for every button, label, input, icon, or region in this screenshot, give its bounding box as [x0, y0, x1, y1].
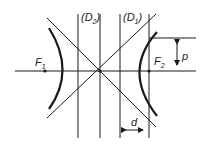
hyperbola-left-branch [49, 28, 63, 109]
label-d1: (D1) [123, 11, 143, 25]
hyperbola-right-branch [140, 32, 158, 116]
label-f1: F1 [35, 56, 46, 70]
hyperbola-diagram: (D2) (D1) F1 F2 p d [0, 0, 207, 148]
label-d2: (D2) [81, 11, 101, 25]
center-point [98, 69, 101, 72]
label-f2: F2 [154, 55, 165, 69]
label-d: d [131, 116, 138, 128]
focus-f2-point [147, 69, 150, 72]
label-p: p [181, 50, 188, 62]
